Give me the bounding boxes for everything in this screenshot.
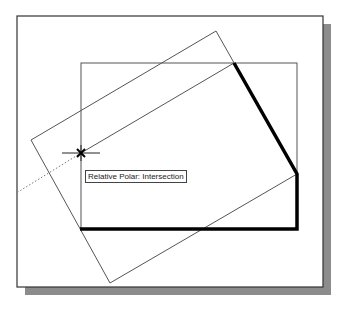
snap-tooltip: Relative Polar: Intersection [85, 170, 187, 183]
drawing-canvas[interactable] [0, 0, 339, 311]
drawing-frame [17, 16, 323, 287]
